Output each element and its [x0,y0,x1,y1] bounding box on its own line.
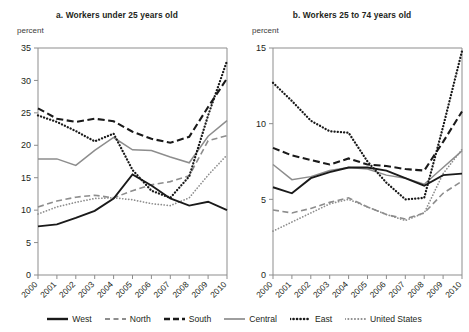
svg-text:2008: 2008 [170,279,190,299]
svg-text:2000: 2000 [254,279,274,299]
svg-text:10: 10 [21,205,31,215]
panel-a-svg: 0510152025303520002001200220032004200520… [0,0,234,305]
legend-label: East [315,314,332,324]
series-line-east [38,61,227,198]
panel-b-svg: 0510152000200120022003200420052006200720… [235,0,469,305]
svg-text:2008: 2008 [405,279,425,299]
line-dotted-gray-icon [345,315,366,323]
legend-item-central: Central [224,314,277,324]
svg-text:10: 10 [256,119,266,129]
svg-text:0: 0 [261,270,266,280]
svg-text:0: 0 [26,270,31,280]
legend-item-north: North [105,314,151,324]
chart-legend: WestNorthSouthCentralEastUnited States [0,306,469,332]
series-line-united-states [38,155,227,214]
legend-item-east: East [290,314,332,324]
svg-text:2005: 2005 [349,279,369,299]
svg-text:25: 25 [21,108,31,118]
series-line-west [38,174,227,226]
svg-text:2007: 2007 [151,279,171,299]
line-dashed-dark-icon [164,315,185,323]
svg-text:2001: 2001 [38,279,58,299]
svg-text:2001: 2001 [273,279,293,299]
series-line-east [273,51,462,199]
svg-text:2009: 2009 [424,279,444,299]
series-line-south [38,78,227,142]
svg-text:15: 15 [21,173,31,183]
legend-label: West [72,314,91,324]
series-line-west [273,168,462,194]
svg-text:2002: 2002 [57,279,77,299]
svg-text:2010: 2010 [443,279,463,299]
svg-text:5: 5 [261,195,266,205]
line-solid-gray-icon [224,315,245,323]
svg-text:30: 30 [21,76,31,86]
svg-text:2007: 2007 [386,279,406,299]
legend-label: Central [249,314,277,324]
svg-text:2010: 2010 [208,279,228,299]
chart-panel-b: b. Workers 25 to 74 years old percent 05… [235,0,469,305]
line-dashed-gray-icon [105,315,126,323]
line-solid-dark-icon [47,315,68,323]
panel-a-plot-area: 0510152025303520002001200220032004200520… [0,0,234,305]
svg-text:2004: 2004 [330,279,350,299]
svg-text:2002: 2002 [292,279,312,299]
svg-text:15: 15 [256,43,266,53]
line-dotted-dark-icon [290,315,311,323]
svg-text:2006: 2006 [133,279,153,299]
legend-item-west: West [47,314,91,324]
svg-text:2003: 2003 [76,279,96,299]
legend-item-united-states: United States [345,314,422,324]
figure-container: a. Workers under 25 years old percent 05… [0,0,469,332]
legend-item-south: South [164,314,211,324]
legend-label: North [130,314,151,324]
svg-text:2003: 2003 [311,279,331,299]
svg-text:2005: 2005 [114,279,134,299]
legend-label: United States [370,314,422,324]
svg-text:2004: 2004 [95,279,115,299]
svg-text:35: 35 [21,43,31,53]
svg-text:20: 20 [21,140,31,150]
chart-panel-a: a. Workers under 25 years old percent 05… [0,0,234,305]
panel-b-plot-area: 0510152000200120022003200420052006200720… [235,0,469,305]
legend-label: South [189,314,211,324]
svg-text:2009: 2009 [189,279,209,299]
svg-text:5: 5 [26,238,31,248]
svg-text:2006: 2006 [368,279,388,299]
svg-text:2000: 2000 [19,279,39,299]
